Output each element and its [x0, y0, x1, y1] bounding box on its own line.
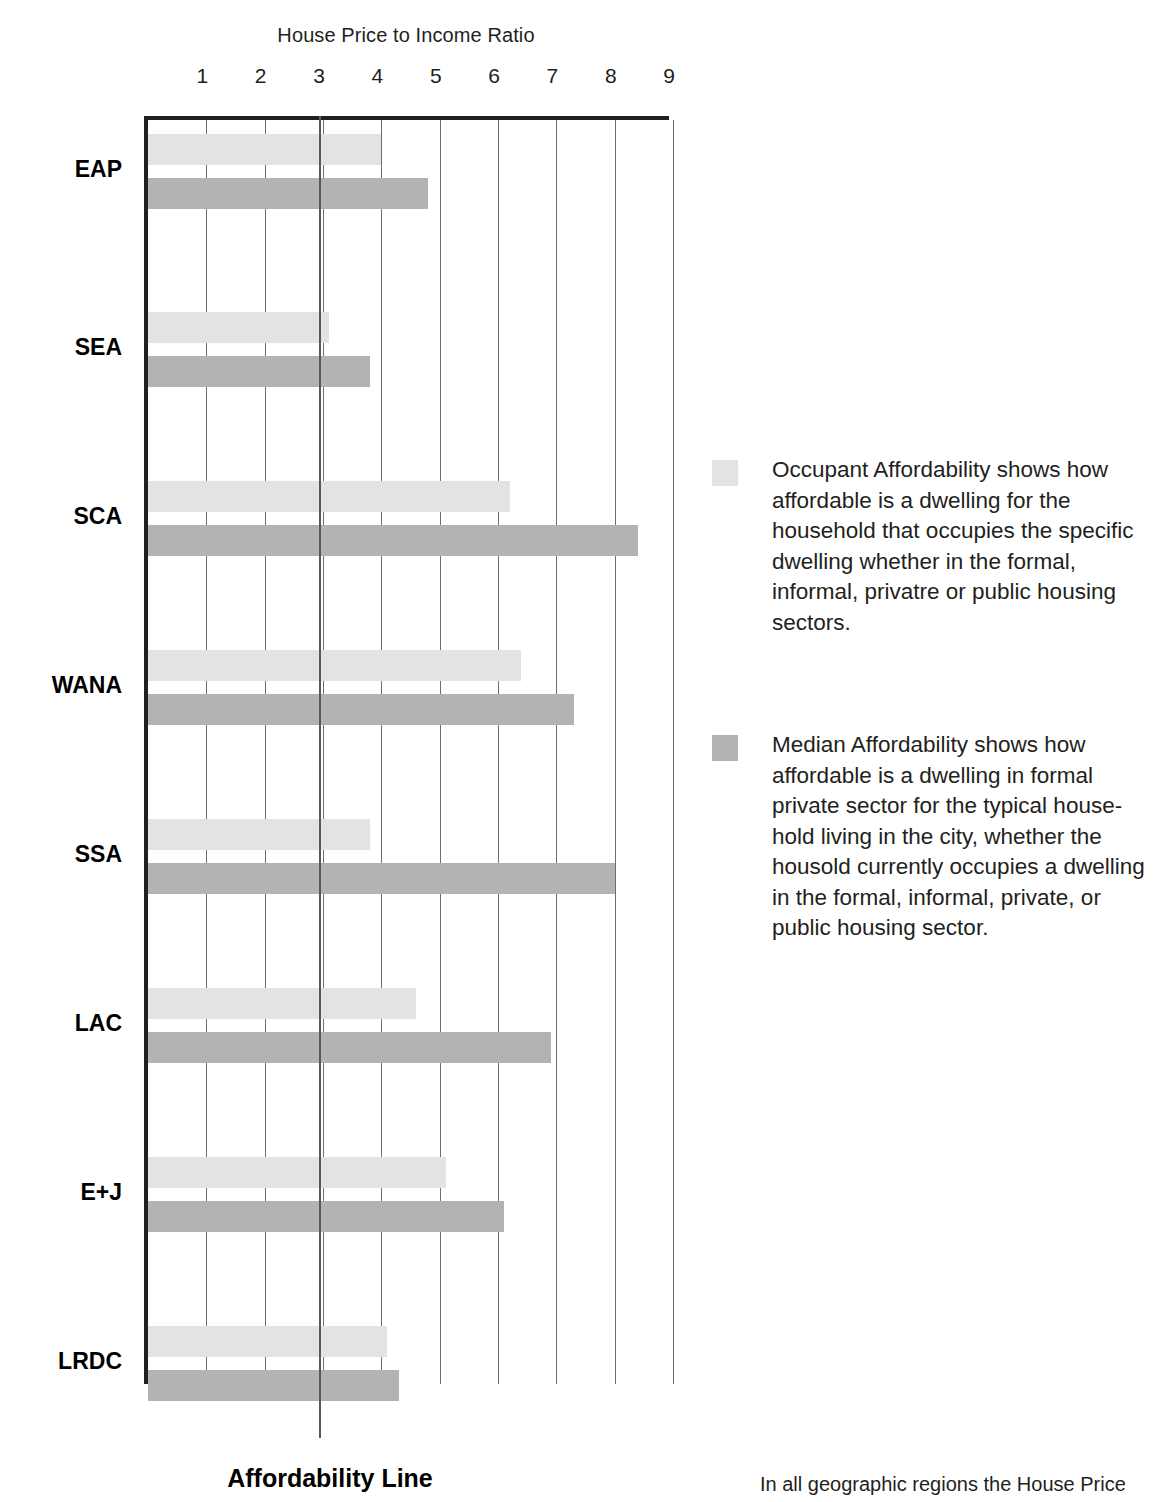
bar-group-sea — [148, 312, 669, 387]
x-axis-tick-3: 3 — [299, 64, 339, 88]
legend: Occupant Affordability shows how afforda… — [712, 455, 1164, 944]
legend-text-occupant: Occupant Affordability shows how afforda… — [772, 455, 1164, 638]
y-axis-category-labels: EAPSEASCAWANASSALACE+JLRDC — [0, 0, 132, 1502]
bar-e-plus-j-occupant — [148, 1157, 446, 1188]
bar-e-plus-j-median — [148, 1201, 504, 1232]
bar-sca-occupant — [148, 481, 510, 512]
bar-group-wana — [148, 650, 669, 725]
bar-sea-median — [148, 356, 370, 387]
x-axis-tick-6: 6 — [474, 64, 514, 88]
y-axis-label-lac: LAC — [0, 1010, 122, 1037]
y-axis-label-ssa: SSA — [0, 841, 122, 868]
bar-eap-median — [148, 178, 428, 209]
bar-lac-occupant — [148, 988, 416, 1019]
legend-swatch-occupant-icon — [712, 460, 738, 486]
x-axis-tick-1: 1 — [182, 64, 222, 88]
bar-eap-occupant — [148, 134, 381, 165]
body-paragraph: In all geographic regions the House Pric… — [760, 1470, 1164, 1498]
x-axis-tick-2: 2 — [241, 64, 281, 88]
bar-ssa-occupant — [148, 819, 370, 850]
x-axis-tick-5: 5 — [416, 64, 456, 88]
bar-wana-median — [148, 694, 574, 725]
plot-area — [144, 116, 669, 1384]
chart-title: House Price to Income Ratio — [144, 24, 668, 47]
bar-group-e-plus-j — [148, 1157, 669, 1232]
affordability-line-label: Affordability Line — [150, 1464, 510, 1493]
bar-wana-occupant — [148, 650, 521, 681]
affordability-line — [319, 116, 321, 1438]
bar-group-sca — [148, 481, 669, 556]
bar-group-lrdc — [148, 1326, 669, 1401]
y-axis-label-e-plus-j: E+J — [0, 1179, 122, 1206]
gridline-9 — [673, 120, 674, 1384]
bar-ssa-median — [148, 863, 615, 894]
bar-sca-median — [148, 525, 638, 556]
bar-group-lac — [148, 988, 669, 1063]
legend-text-median: Median Affordability shows how affordabl… — [772, 730, 1164, 944]
y-axis-label-sea: SEA — [0, 334, 122, 361]
y-axis-label-sca: SCA — [0, 503, 122, 530]
y-axis-label-eap: EAP — [0, 156, 122, 183]
legend-swatch-median-icon — [712, 735, 738, 761]
bar-sea-occupant — [148, 312, 329, 343]
x-axis-tick-8: 8 — [591, 64, 631, 88]
x-axis-tick-7: 7 — [532, 64, 572, 88]
x-axis-tick-4: 4 — [357, 64, 397, 88]
y-axis-label-lrdc: LRDC — [0, 1348, 122, 1375]
y-axis-label-wana: WANA — [0, 672, 122, 699]
bar-group-eap — [148, 134, 669, 209]
bar-lac-median — [148, 1032, 551, 1063]
legend-entry-occupant: Occupant Affordability shows how afforda… — [712, 455, 1164, 638]
legend-entry-median: Median Affordability shows how affordabl… — [712, 730, 1164, 944]
bar-lrdc-median — [148, 1370, 399, 1401]
x-axis-tick-9: 9 — [649, 64, 689, 88]
bar-group-ssa — [148, 819, 669, 894]
bar-lrdc-occupant — [148, 1326, 387, 1357]
